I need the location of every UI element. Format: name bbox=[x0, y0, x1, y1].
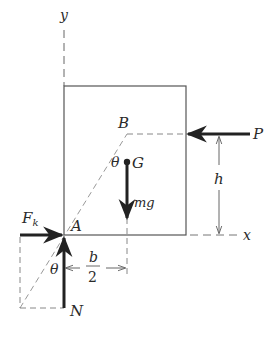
dim-h-label: h bbox=[214, 170, 224, 188]
dim-b-label: b bbox=[89, 249, 98, 265]
normal-label: N bbox=[69, 302, 84, 320]
dim-2-label: 2 bbox=[88, 269, 97, 285]
point-B-label: B bbox=[117, 114, 129, 132]
angle-theta-upper: θ bbox=[111, 154, 120, 170]
point-A-label: A bbox=[69, 217, 82, 235]
force-P-label: P bbox=[252, 125, 264, 143]
free-body-diagram: y x B θ G mg P h Fk A N θ b 2 bbox=[0, 0, 276, 342]
friction-label: Fk bbox=[21, 209, 38, 228]
x-axis-label: x bbox=[243, 227, 251, 243]
angle-theta-lower: θ bbox=[50, 261, 59, 277]
point-G-label: G bbox=[132, 154, 144, 172]
weight-label: mg bbox=[134, 195, 155, 210]
y-axis-label: y bbox=[59, 7, 69, 23]
